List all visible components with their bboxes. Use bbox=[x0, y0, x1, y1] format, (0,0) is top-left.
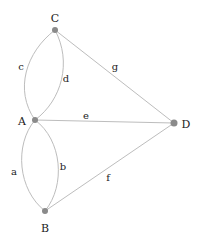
edge-g bbox=[55, 30, 174, 123]
graph-diagram: C A D B c d g e a b f bbox=[0, 0, 205, 241]
node-label-c: C bbox=[51, 12, 59, 25]
edge-c bbox=[24, 30, 55, 120]
edge-d bbox=[35, 30, 63, 120]
edge-a bbox=[22, 120, 45, 211]
node-label-d: D bbox=[182, 118, 191, 131]
edge-label-c: c bbox=[18, 61, 24, 72]
edge-label-e: e bbox=[83, 110, 89, 121]
edge-e bbox=[35, 120, 174, 123]
edge-label-b: b bbox=[60, 161, 66, 172]
edge-label-d: d bbox=[63, 73, 70, 84]
edge-b bbox=[35, 120, 58, 211]
edge-label-a: a bbox=[11, 166, 17, 177]
node-label-a: A bbox=[17, 115, 27, 128]
node-a bbox=[32, 117, 38, 123]
node-c bbox=[52, 27, 58, 33]
node-d bbox=[171, 120, 178, 127]
node-b bbox=[42, 208, 48, 214]
edge-label-f: f bbox=[106, 172, 111, 183]
node-label-b: B bbox=[41, 222, 49, 235]
graph-svg: C A D B c d g e a b f bbox=[0, 0, 205, 241]
edge-label-g: g bbox=[112, 61, 119, 72]
